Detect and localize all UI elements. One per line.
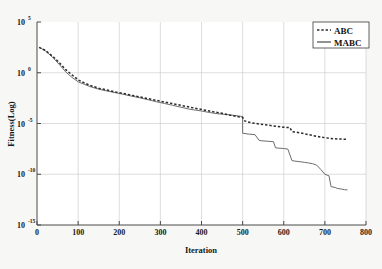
svg-text:0: 0 (28, 66, 31, 72)
x-tick-label: 800 (360, 228, 372, 237)
x-tick-label: 600 (278, 228, 290, 237)
svg-text:-5: -5 (28, 117, 33, 123)
svg-text:10: 10 (17, 120, 25, 129)
x-tick-label: 300 (154, 228, 166, 237)
x-tick-label: 0 (35, 228, 39, 237)
svg-text:-15: -15 (28, 218, 36, 224)
svg-text:10: 10 (17, 18, 25, 27)
legend-label-abc: ABC (334, 26, 353, 36)
legend-label-mabc: MABC (334, 38, 362, 48)
svg-text:10: 10 (17, 69, 25, 78)
svg-text:5: 5 (28, 15, 31, 21)
svg-text:-10: -10 (28, 167, 36, 173)
x-tick-label: 100 (72, 228, 84, 237)
x-tick-label: 700 (319, 228, 331, 237)
svg-text:10: 10 (17, 221, 25, 230)
x-tick-label: 500 (237, 228, 249, 237)
x-tick-label: 400 (196, 228, 208, 237)
figure-container: 0100200300400500600700800 10510010-510-1… (0, 0, 382, 269)
legend: ABC MABC (313, 22, 369, 48)
x-axis-title: Iteration (185, 245, 217, 255)
y-axis-title: Fitness(Log) (6, 101, 16, 147)
svg-text:10: 10 (17, 170, 25, 179)
x-tick-label: 200 (113, 228, 125, 237)
fitness-convergence-chart: 0100200300400500600700800 10510010-510-1… (0, 0, 382, 269)
